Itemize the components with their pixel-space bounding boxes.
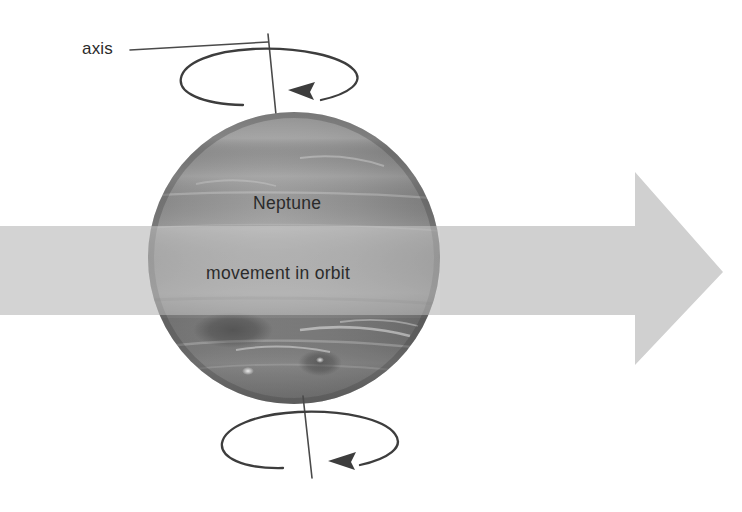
rotation-arrowhead-bottom	[328, 452, 356, 470]
rotation-axis-lower	[303, 396, 312, 478]
axis-label: axis	[82, 39, 113, 58]
neptune-diagram-figure: axis	[0, 0, 742, 512]
bright-cloud-a	[316, 357, 324, 363]
great-dark-spot	[193, 312, 273, 348]
planet-name-label: Neptune	[253, 193, 321, 213]
diagram-canvas: axis	[0, 0, 742, 512]
orbit-motion-label: movement in orbit	[206, 263, 350, 283]
axis-label-group: axis	[82, 39, 268, 58]
rotation-arrow-top	[181, 49, 358, 105]
rotation-ellipse-top	[181, 49, 358, 105]
axis-line-lower	[303, 396, 312, 478]
bright-cloud-b	[242, 367, 254, 375]
rotation-arrowhead-top	[288, 82, 315, 100]
